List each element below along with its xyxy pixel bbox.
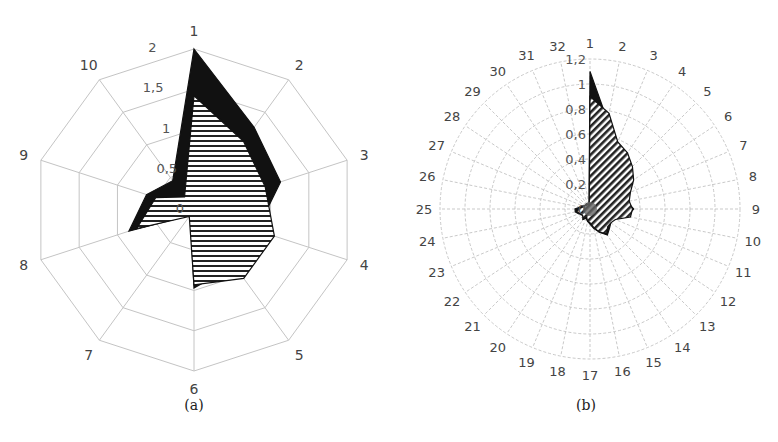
svg-text:19: 19 [518,355,535,370]
svg-text:1: 1 [162,121,170,136]
caption-a: (a) [164,397,224,413]
svg-text:27: 27 [428,138,445,153]
svg-text:14: 14 [674,340,691,355]
radial-tick-labels: 00,20,40,60,811,2 [565,52,586,217]
svg-text:4: 4 [360,257,369,273]
svg-text:15: 15 [645,355,662,370]
svg-text:11: 11 [735,265,752,280]
svg-text:0: 0 [578,202,586,217]
svg-text:6: 6 [724,109,732,124]
svg-text:0,2: 0,2 [565,177,586,192]
svg-text:21: 21 [464,319,481,334]
svg-text:0,4: 0,4 [565,152,586,167]
svg-text:8: 8 [19,257,28,273]
svg-text:13: 13 [699,319,716,334]
svg-text:0,5: 0,5 [156,161,177,176]
svg-text:10: 10 [80,57,98,73]
svg-text:1,2: 1,2 [565,52,586,67]
svg-text:5: 5 [703,84,711,99]
svg-text:32: 32 [549,39,566,54]
svg-text:31: 31 [518,48,535,63]
svg-text:1: 1 [586,36,594,51]
svg-text:2: 2 [618,39,626,54]
svg-text:1: 1 [190,23,199,39]
svg-text:0,8: 0,8 [565,102,586,117]
svg-text:5: 5 [295,347,304,363]
svg-text:2: 2 [148,40,156,55]
svg-text:3: 3 [360,147,369,163]
svg-text:9: 9 [752,202,760,217]
svg-text:17: 17 [582,368,599,383]
caption-b: (b) [556,397,616,413]
svg-text:12: 12 [720,294,737,309]
radar-plot-a: 00,511,5212345678910 [0,0,390,442]
svg-text:16: 16 [614,364,631,379]
svg-text:24: 24 [419,234,436,249]
svg-text:10: 10 [745,234,762,249]
svg-text:9: 9 [19,147,28,163]
svg-text:3: 3 [649,48,657,63]
svg-text:18: 18 [549,364,566,379]
svg-text:4: 4 [678,64,686,79]
svg-text:7: 7 [84,347,93,363]
svg-text:2: 2 [295,57,304,73]
svg-text:20: 20 [490,340,507,355]
svg-text:0,6: 0,6 [565,127,586,142]
svg-text:1,5: 1,5 [143,80,164,95]
svg-text:26: 26 [419,169,436,184]
svg-text:6: 6 [190,381,199,397]
radar-chart-a: 00,511,5212345678910 (a) [0,0,390,442]
radar-plot-b: 00,20,40,60,811,212345678910111213141516… [390,0,778,442]
svg-text:28: 28 [444,109,461,124]
svg-text:23: 23 [428,265,445,280]
svg-text:22: 22 [444,294,461,309]
svg-text:8: 8 [749,169,757,184]
svg-text:30: 30 [490,64,507,79]
svg-text:25: 25 [416,202,433,217]
radar-chart-b: 00,20,40,60,811,212345678910111213141516… [390,0,778,442]
svg-text:29: 29 [464,84,481,99]
svg-text:7: 7 [739,138,747,153]
svg-text:1: 1 [578,77,586,92]
svg-text:0: 0 [176,201,184,216]
